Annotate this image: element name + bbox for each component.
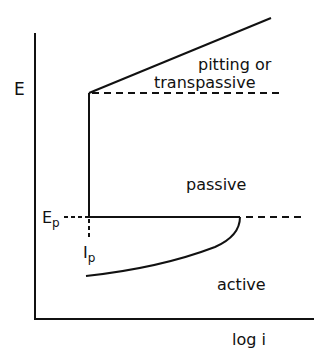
y-axis-label: E (14, 79, 25, 99)
ep-label: Ep (42, 208, 60, 230)
ep-label-sub: p (52, 216, 60, 230)
region-label-active: active (217, 275, 266, 294)
x-axis-label: log i (232, 330, 266, 349)
polarization-diagram: E log i pitting or transpassive passive … (0, 0, 325, 356)
ip-label: Ip (83, 243, 95, 265)
region-label-transpassive: transpassive (154, 73, 256, 92)
ip-label-sub: p (88, 251, 96, 265)
region-label-pitting: pitting or (198, 55, 272, 74)
active-curve (86, 217, 240, 276)
ep-label-main: E (42, 208, 52, 227)
region-label-passive: passive (186, 175, 246, 194)
